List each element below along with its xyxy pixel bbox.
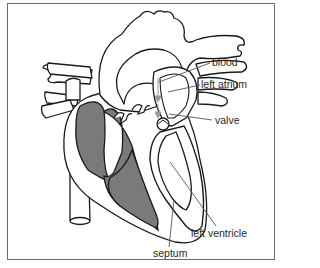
vena-cava-opening — [70, 218, 90, 225]
label-left-ventricle: left ventricle — [191, 228, 247, 239]
label-valve: valve — [215, 115, 240, 126]
label-blood: blood — [212, 57, 238, 68]
label-septum: septum — [153, 248, 187, 259]
pulmonary-vein-3 — [198, 92, 227, 106]
label-left-atrium: left atrium — [201, 79, 247, 90]
vena-cava-top — [66, 78, 80, 100]
